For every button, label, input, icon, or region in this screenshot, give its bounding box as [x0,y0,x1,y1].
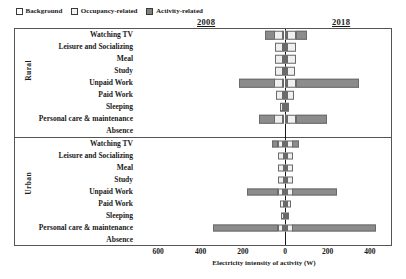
bar-segment-occupancy [287,177,293,184]
category-label: Sleeping [16,210,135,222]
bar-right-urban [285,141,299,148]
category-label: Paid Work [16,198,135,210]
bar-segment-activity [292,189,336,196]
bar-right-rural [285,55,296,64]
category-label: Paid Work [16,89,135,101]
category-label: Meal [16,53,135,65]
year-header-right: 2018 [332,17,350,27]
legend-item-activity: Activity-related [146,7,202,15]
bar-segment-occupancy [287,43,297,52]
bar-left-urban [278,165,285,172]
legend-label: Background [26,7,63,15]
bar-left-urban [278,153,285,160]
legend-swatch-activity-icon [146,8,153,15]
bar-segment-occupancy [287,165,293,172]
x-tick-label: 400 [364,247,375,256]
bar-right-rural [285,91,293,100]
bar-segment-activity [296,79,359,88]
bar-right-rural [285,103,289,112]
bar-rows-rural [137,29,391,137]
bar-left-urban [272,141,285,148]
bar-right-urban [285,177,292,184]
bar-segment-activity [247,189,279,196]
bar-row [137,113,391,125]
bar-right-urban [285,189,337,196]
bar-right-rural [285,67,295,76]
bar-segment-background [282,115,284,124]
category-label: Leisure and Socializing [16,41,135,53]
bar-segment-activity [213,225,279,232]
bar-right-urban [285,153,292,160]
bar-row [137,186,391,198]
category-label: Watching TV [16,138,135,150]
bar-segment-occupancy [287,55,297,64]
chart-legend: BackgroundOccupancy-relatedActivity-rela… [16,7,203,15]
x-tick-label: 600 [153,247,164,256]
category-label: Unpaid Work [16,77,135,89]
bar-right-rural [285,31,307,40]
bar-segment-occupancy [287,91,294,100]
category-label: Absence [16,234,135,246]
x-axis-ticks: 6004002000200400 [137,247,391,258]
year-header-left: 2008 [197,17,215,27]
bar-row [137,150,391,162]
bar-left-rural [259,115,285,124]
bar-segment-activity [296,31,307,40]
category-label: Meal [16,162,135,174]
bar-row [137,174,391,186]
category-label: Leisure and Socializing [16,150,135,162]
category-label: Study [16,174,135,186]
bar-row [137,210,391,222]
category-label: Watching TV [16,29,135,41]
bar-segment-occupancy [287,201,292,208]
bar-segment-background [282,31,284,40]
bar-segment-occupancy [287,153,293,160]
bar-left-rural [275,67,285,76]
bar-segment-activity [292,141,299,148]
category-label: Personal care & maintenance [16,113,135,125]
category-label: Absence [16,125,135,137]
bar-segment-occupancy [287,67,295,76]
bar-row [137,65,391,77]
plot-area [137,29,391,245]
bar-left-rural [275,55,285,64]
x-tick-label: 200 [237,247,248,256]
bar-row [137,77,391,89]
bar-row [137,234,391,246]
bar-segment-occupancy [287,103,290,112]
bar-right-rural [285,79,360,88]
bar-row [137,29,391,41]
x-axis-title: Electricity intensity of activity (W) [137,259,391,267]
bar-segment-activity [239,79,275,88]
legend-swatch-occupancy-icon [71,8,78,15]
bar-left-urban [278,177,285,184]
bar-right-urban [285,165,292,172]
bar-right-urban [285,201,291,208]
bar-row [137,41,391,53]
legend-label: Occupancy-related [81,7,138,15]
category-label: Study [16,65,135,77]
bar-right-urban [285,225,376,232]
bar-right-rural [285,115,328,124]
bar-segment-activity [292,225,376,232]
x-tick-label: 400 [195,247,206,256]
category-labels-urban: Watching TVLeisure and SocializingMealSt… [16,138,135,246]
bar-left-urban [247,189,286,196]
bar-rows-urban [137,138,391,246]
bar-segment-occupancy [287,213,289,220]
x-tick-label: 0 [283,247,287,256]
bar-row [137,138,391,150]
category-label: Unpaid Work [16,186,135,198]
legend-label: Activity-related [156,7,203,15]
bar-segment-background [282,79,284,88]
category-label: Personal care & maintenance [16,222,135,234]
bar-row [137,89,391,101]
bar-segment-activity [296,115,328,124]
x-tick-label: 200 [322,247,333,256]
bar-segment-activity [259,115,275,124]
bar-row [137,101,391,113]
legend-item-occupancy: Occupancy-related [71,7,137,15]
legend-item-background: Background [16,7,62,15]
category-labels-rural: Watching TVLeisure and SocializingMealSt… [16,29,135,137]
bar-row [137,125,391,137]
